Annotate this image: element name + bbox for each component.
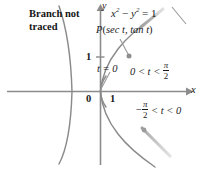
- t-equals-zero-label: t = 0: [97, 63, 118, 74]
- equation-minus-sign: −: [119, 7, 131, 19]
- pi-over-two-fraction-upper: π2: [163, 61, 169, 81]
- trace-arrow-lower-icon: [142, 128, 170, 156]
- lower-branch-marker: [142, 128, 147, 133]
- point-y-component: tan t: [130, 24, 149, 35]
- branch-note-leader-line: [19, 18, 29, 26]
- x-axis-label: x: [191, 84, 196, 95]
- x-axis-tick-label-1: 1: [110, 93, 115, 104]
- y-axis-label: y: [102, 1, 106, 12]
- equation-equals-one: = 1: [139, 7, 156, 19]
- equation-leader-line: [172, 7, 186, 24]
- y-axis-tick-label-1: 1: [86, 51, 91, 62]
- pi-numerator-upper: π: [163, 61, 169, 70]
- range-lower-label: −π2 < t < 0: [136, 100, 181, 120]
- two-denominator-upper: 2: [163, 72, 169, 81]
- point-paren-close: ): [149, 24, 153, 35]
- hyperbola-figure: Branch not traced x2 − y2 = 1 P(sec t, t…: [0, 0, 204, 169]
- hyperbola-equation-label: x2 − y2 = 1: [111, 6, 157, 20]
- origin-label: 0: [86, 93, 91, 104]
- range-upper-label: 0 < t < π2: [130, 61, 169, 81]
- point-P-marker: [127, 54, 132, 59]
- branch-not-traced-label: Branch not traced: [29, 7, 91, 33]
- point-P-label: P(sec t, tan t): [96, 24, 153, 35]
- range-upper-prefix: 0 < t <: [130, 66, 163, 77]
- range-lower-suffix: < t < 0: [148, 105, 181, 116]
- point-x-component: sec t: [106, 24, 125, 35]
